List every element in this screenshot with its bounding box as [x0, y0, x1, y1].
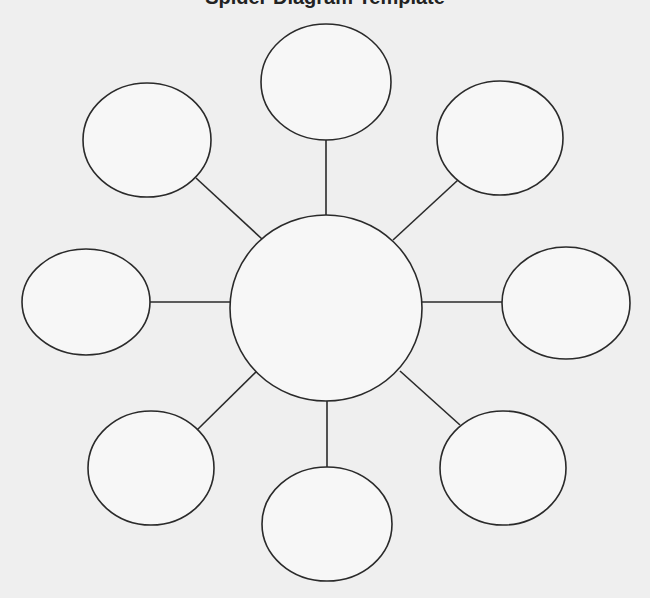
node-bottom — [262, 467, 392, 581]
connector-bottom-left — [197, 371, 257, 430]
node-top-left — [83, 83, 211, 197]
node-bottom-left — [88, 411, 214, 525]
spider-diagram: Spider Diagram Template — [0, 0, 650, 598]
node-top-right — [437, 81, 563, 195]
diagram-canvas — [0, 0, 650, 598]
node-left — [22, 249, 150, 355]
node-top — [261, 24, 391, 140]
connector-top-right — [393, 180, 458, 240]
center-node — [230, 215, 422, 401]
node-right — [502, 247, 630, 359]
connector-top-left — [196, 178, 262, 239]
node-bottom-right — [440, 411, 566, 525]
connector-bottom-right — [400, 371, 460, 425]
